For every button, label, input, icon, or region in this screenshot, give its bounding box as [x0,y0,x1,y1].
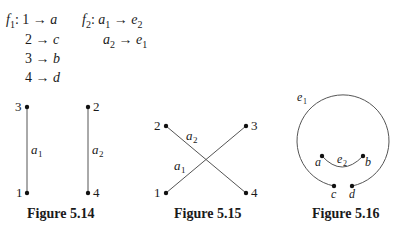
svg-text:2: 2 [343,159,347,168]
svg-text:d: d [349,187,356,201]
figure-5-15: 2 3 1 4 a 2 a 1 [154,118,258,200]
figure-caption-5-16: Figure 5.16 [312,206,379,222]
figure-5-14: 3 1 2 4 a 1 a 2 [15,99,104,200]
svg-text:a: a [92,142,99,157]
vertex-3 [25,105,29,109]
svg-text:a: a [315,155,321,169]
svg-text:3: 3 [15,99,22,114]
figure-caption-5-14: Figure 5.14 [27,206,94,222]
svg-text:a: a [174,158,181,173]
svg-text:2: 2 [193,135,198,145]
svg-text:4: 4 [93,185,100,200]
figures-canvas: 3 1 2 4 a 1 a 2 2 3 1 4 a 2 a 1 a b c d [0,0,396,225]
svg-text:b: b [365,155,371,169]
svg-text:c: c [331,187,337,201]
vertex-2 [86,105,90,109]
figure-5-16: a b c d e 1 e 2 [297,90,389,201]
svg-text:3: 3 [251,118,258,133]
vertex-1 [25,191,29,195]
svg-text:a: a [31,142,38,157]
svg-text:1: 1 [303,97,307,106]
svg-text:1: 1 [154,185,161,200]
svg-text:1: 1 [181,165,186,175]
svg-text:2: 2 [93,99,100,114]
svg-text:a: a [186,128,193,143]
svg-text:1: 1 [38,149,43,159]
svg-text:1: 1 [16,185,23,200]
vertex-4 [86,191,90,195]
svg-text:2: 2 [99,149,104,159]
svg-text:4: 4 [251,185,258,200]
figure-caption-5-15: Figure 5.15 [174,206,241,222]
svg-text:2: 2 [154,118,161,133]
